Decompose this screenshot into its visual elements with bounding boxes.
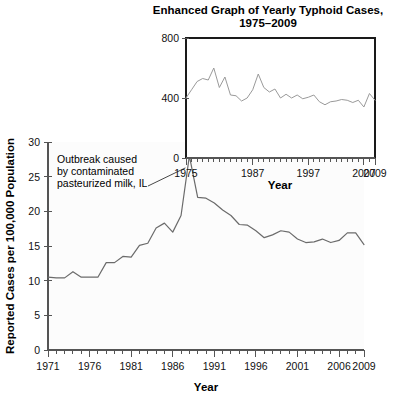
main-y-axis-title: Reported Cases per 100,000 Population [4, 138, 16, 354]
annotation-line-2: by contaminated [57, 165, 134, 177]
main-x-tick-label: 2006 [327, 360, 351, 372]
main-y-tick-label: 15 [28, 240, 40, 252]
main-x-tick-label: 1981 [119, 360, 143, 372]
inset-x-tick-label: 1997 [297, 167, 321, 179]
main-x-tick-label: 1971 [36, 360, 60, 372]
typhoid-figure: 051015202530 197119761981198619911996200… [0, 0, 398, 397]
inset-y-tick-label: 0 [173, 152, 179, 164]
inset-x-tick-label: 2009 [363, 167, 387, 179]
inset-title-line-1: Enhanced Graph of Yearly Typhoid Cases, [153, 4, 383, 16]
inset-title-line-2: 1975–2009 [239, 17, 297, 29]
annotation-line-1: Outbreak caused [57, 153, 137, 165]
inset-x-axis-title: Year [268, 179, 293, 191]
main-x-tick-label: 1991 [203, 360, 227, 372]
inset-x-tick-label: 1987 [241, 167, 265, 179]
main-y-tick-label: 0 [34, 344, 40, 356]
main-x-tick-label: 1986 [161, 360, 185, 372]
main-y-tick-label: 30 [28, 136, 40, 148]
main-x-tick-label: 1996 [244, 360, 268, 372]
annotation-line-3: pasteurized milk, IL [57, 177, 148, 189]
chart-canvas: 051015202530 197119761981198619911996200… [0, 0, 398, 397]
main-x-axis-title: Year [194, 381, 219, 393]
main-x-tick-label: 1976 [78, 360, 102, 372]
main-y-tick-label: 25 [28, 171, 40, 183]
main-x-tick-label: 2001 [286, 360, 310, 372]
main-x-tick-labels: 197119761981198619911996200120062009 [36, 360, 376, 372]
main-x-tick-label: 2009 [352, 360, 376, 372]
main-y-tick-labels: 051015202530 [28, 136, 40, 356]
main-y-tick-label: 5 [34, 309, 40, 321]
inset-y-tick-label: 800 [161, 32, 179, 44]
inset-x-tick-label: 1975 [174, 167, 198, 179]
main-y-tick-label: 10 [28, 275, 40, 287]
inset-y-tick-label: 400 [161, 92, 179, 104]
main-y-tick-label: 20 [28, 205, 40, 217]
main-x-ticks [48, 350, 364, 357]
